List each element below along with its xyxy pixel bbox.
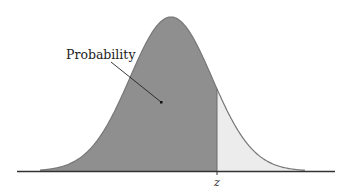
pointer-dot bbox=[160, 101, 163, 104]
probability-area bbox=[40, 17, 217, 171]
diagram-canvas: Probability z bbox=[0, 0, 358, 192]
tail-area bbox=[217, 89, 305, 171]
normal-distribution-diagram: Probability z bbox=[0, 0, 358, 192]
z-label: z bbox=[213, 176, 220, 189]
probability-label: Probability bbox=[66, 47, 136, 62]
